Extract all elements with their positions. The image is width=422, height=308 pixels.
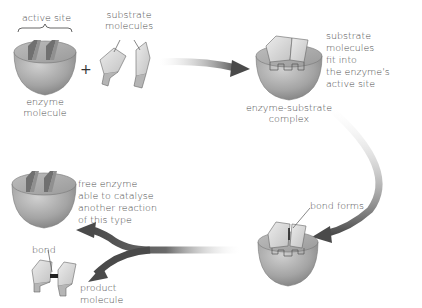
enzyme-molecule-shape <box>14 40 76 95</box>
bond-forming-enzyme-shape <box>258 208 318 286</box>
arrow-to-complex <box>160 60 250 77</box>
substrate-molecules-label-2: molecules <box>104 20 154 31</box>
substrate-molecules-label-1: substrate <box>104 9 154 20</box>
arrow-split-to-products <box>76 222 240 282</box>
bond-forms-label: bond forms <box>310 200 364 211</box>
fit-label-3: fit into <box>326 54 357 65</box>
fit-label-5: active site <box>326 78 375 89</box>
plus-sign: + <box>80 64 92 75</box>
complex-label-2: complex <box>244 113 334 124</box>
substrate-molecules-shape <box>100 40 150 88</box>
free-enzyme-label-4: of this type <box>78 214 132 225</box>
active-site-label: active site <box>22 12 68 23</box>
free-enzyme-shape <box>12 171 76 228</box>
enzyme-molecule-label-2: molecule <box>20 107 70 118</box>
fit-label-4: the enzyme's <box>326 66 390 77</box>
free-enzyme-label-3: another reaction <box>78 202 157 213</box>
bond-label: bond <box>32 244 56 255</box>
active-site-bracket <box>18 24 72 32</box>
enzyme-molecule-label-1: enzyme <box>20 96 70 107</box>
arrow-to-bond-forming <box>312 108 379 243</box>
free-enzyme-label-2: able to catalyse <box>78 190 154 201</box>
complex-label-1: enzyme-substrate <box>244 102 334 113</box>
product-label-1: product <box>80 282 117 293</box>
fit-label-1: substrate <box>326 30 371 41</box>
product-label-2: molecule <box>80 294 123 305</box>
free-enzyme-label-1: free enzyme <box>78 178 137 189</box>
enzyme-substrate-complex-shape <box>256 36 322 100</box>
product-molecule-shape <box>32 250 76 296</box>
enzyme-diagram: active site substrate molecules + enzyme… <box>0 0 422 308</box>
fit-label-2: molecules <box>326 42 374 53</box>
